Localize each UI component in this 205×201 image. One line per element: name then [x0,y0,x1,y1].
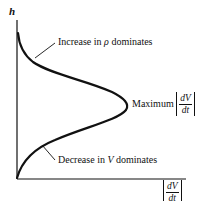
upper-annotation-leader [35,43,55,58]
upper-annotation: Increase in ρ dominates [58,37,153,47]
peak-annotation: Maximum dV dt [132,92,195,116]
y-axis-label: h [9,5,15,17]
abs-dvdt-fraction: dV dt [176,92,195,116]
x-axis-label: dV dt [163,180,182,201]
lower-annotation-leader [42,145,55,160]
lower-annotation: Decrease in V dominates [58,155,157,165]
